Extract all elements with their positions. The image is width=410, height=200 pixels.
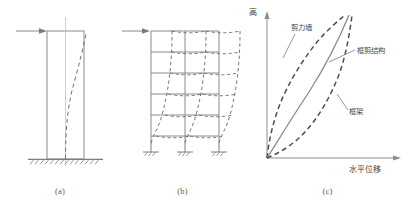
annotation-frame-shear: 框剪结构 (329, 46, 385, 62)
structural-deformation-figure: (a) (0, 0, 410, 200)
annotation-shear-wall-label: 剪力墙 (291, 23, 313, 32)
panel-c-caption: (c) (245, 186, 410, 196)
panel-displacement-chart: 高 水平位移 剪力墙 框剪结构 框架 (c) (245, 0, 410, 200)
panel-b-caption: (b) (120, 186, 245, 196)
annotation-frame-label: 框架 (349, 107, 364, 116)
panel-a-caption: (a) (0, 186, 120, 196)
x-axis (267, 155, 401, 160)
base-support-3 (211, 143, 227, 156)
base-support-2 (177, 143, 193, 156)
horizontal-load-arrow (16, 28, 47, 34)
frame-columns (151, 31, 219, 143)
displacement-chart-svg: 高 水平位移 剪力墙 框剪结构 框架 (245, 0, 410, 178)
bending-deformation-curve (66, 32, 87, 159)
annotation-frame: 框架 (337, 94, 364, 116)
series-shear-wall-curve (267, 15, 345, 158)
series-frame-shear-curve (267, 15, 349, 158)
frame-diagram (120, 0, 245, 175)
shear-wall-diagram (0, 0, 120, 175)
shear-deformation-curves (151, 31, 240, 143)
annotation-shear-wall: 剪力墙 (283, 23, 313, 58)
deformed-beams (156, 31, 240, 138)
y-axis (264, 11, 269, 158)
y-axis-label: 高 (249, 7, 257, 17)
base-support-1 (143, 143, 159, 156)
panel-shear-wall: (a) (0, 0, 120, 200)
annotation-frame-shear-label: 框剪结构 (357, 46, 385, 55)
panel-frame: (b) (120, 0, 245, 200)
frame-base-supports (143, 143, 227, 156)
x-axis-label: 水平位移 (349, 164, 381, 174)
horizontal-load-arrow (122, 28, 150, 34)
